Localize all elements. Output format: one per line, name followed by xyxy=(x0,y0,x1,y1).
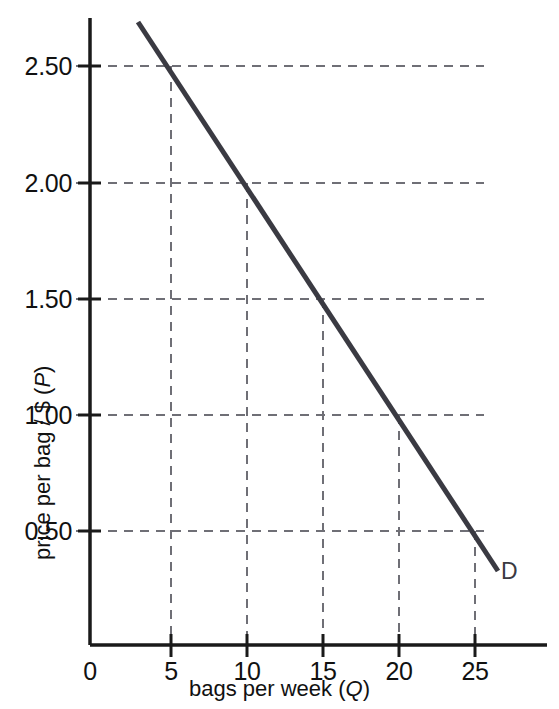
y-tick-label-2.50: 2.50 xyxy=(0,52,72,81)
demand-curve-line xyxy=(138,22,498,571)
chart-plot-area xyxy=(0,0,559,709)
y-axis-title-text: price per bag / $ ( xyxy=(30,388,55,560)
y-tick-label-2.00: 2.00 xyxy=(0,169,72,198)
y-axis-title: price per bag / $ (P) xyxy=(30,366,56,560)
x-axis-title-text: bags per week ( xyxy=(189,676,346,701)
demand-curve-chart: 2.50 2.00 1.50 1.00 0.50 0 5 10 15 20 25… xyxy=(0,0,559,709)
x-axis-title-variable: Q xyxy=(346,676,363,701)
x-axis-title: bags per week (Q) xyxy=(0,676,559,702)
vertical-gridlines xyxy=(171,66,475,655)
horizontal-gridlines xyxy=(76,66,484,531)
y-tick-label-1.50: 1.50 xyxy=(0,285,72,314)
y-axis-title-variable: P xyxy=(30,373,55,388)
y-axis-title-tail: ) xyxy=(30,366,55,373)
x-axis-title-tail: ) xyxy=(363,676,370,701)
demand-curve-label: D xyxy=(501,558,518,585)
